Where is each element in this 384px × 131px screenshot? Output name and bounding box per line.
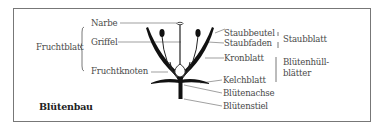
label-kelchblatt: Kelchblatt bbox=[223, 75, 266, 85]
diagram-title: Blütenbau bbox=[39, 101, 93, 112]
label-griffel: Griffel bbox=[91, 37, 118, 47]
label-fruchtblatt: Fruchtblatt bbox=[36, 42, 84, 52]
label-staubblatt: Staubblatt bbox=[283, 34, 327, 44]
label-kronblatt: Kronblatt bbox=[224, 53, 264, 63]
label-bluetenhuell-line2: blätter bbox=[283, 68, 311, 78]
label-staubbeutel: Staubbeutel bbox=[224, 28, 275, 38]
ovary-icon bbox=[175, 64, 185, 77]
label-bluetenstiel: Blütenstiel bbox=[223, 101, 268, 111]
label-bluetenachse: Blütenachse bbox=[223, 88, 274, 98]
stigma-icon bbox=[177, 22, 183, 24]
label-narbe: Narbe bbox=[91, 18, 117, 28]
stem-icon bbox=[177, 77, 183, 99]
label-staubfaden: Staubfaden bbox=[224, 38, 272, 48]
label-bluetenhuell-line1: Blütenhüll- bbox=[283, 57, 329, 67]
pistil-icon bbox=[175, 22, 185, 77]
label-fruchtknoten: Fruchtknoten bbox=[91, 66, 148, 76]
